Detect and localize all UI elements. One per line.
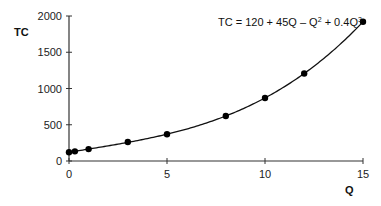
x-tick-label: 5 xyxy=(164,168,170,180)
x-tick-label: 0 xyxy=(66,168,72,180)
y-axis-title: TC xyxy=(14,26,29,38)
total-cost-chart: 0500100015002000051015 TC Q TC = 120 + 4… xyxy=(0,0,381,206)
x-tick-label: 15 xyxy=(357,168,369,180)
data-point xyxy=(66,149,72,155)
data-point xyxy=(85,146,91,152)
data-point xyxy=(301,70,307,76)
data-point xyxy=(125,139,131,145)
y-tick-label: 1500 xyxy=(38,46,62,58)
data-point xyxy=(223,113,229,119)
data-point xyxy=(72,148,78,154)
x-tick-label: 10 xyxy=(259,168,271,180)
y-tick-label: 2000 xyxy=(38,10,62,22)
cost-equation: TC = 120 + 45Q – Q2 + 0.4Q3 xyxy=(218,16,362,28)
axes: 0500100015002000051015 xyxy=(38,10,370,180)
y-tick-label: 1000 xyxy=(38,83,62,95)
data-points xyxy=(66,19,366,156)
tc-curve xyxy=(69,22,363,153)
y-tick-label: 500 xyxy=(44,119,62,131)
data-point xyxy=(164,131,170,137)
x-axis-title: Q xyxy=(345,184,354,196)
data-point xyxy=(262,95,268,101)
y-tick-label: 0 xyxy=(56,155,62,167)
